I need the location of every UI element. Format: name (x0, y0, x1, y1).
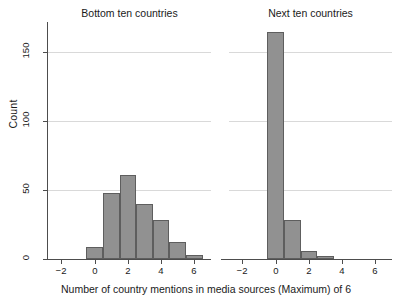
plot-area (48, 22, 211, 259)
x-tick-label: 0 (85, 265, 105, 276)
y-tick-mark (43, 121, 47, 122)
histogram-bar (136, 204, 153, 259)
x-tick-mark (276, 260, 277, 264)
histogram-bar (120, 175, 137, 259)
x-tick-mark (375, 260, 376, 264)
x-tick-label: 0 (266, 265, 286, 276)
y-tick-mark (43, 190, 47, 191)
y-tick-label: 150 (20, 36, 31, 66)
gridline (48, 121, 211, 122)
y-tick-label: 100 (20, 105, 31, 135)
x-tick-mark (128, 260, 129, 264)
gridline (229, 121, 392, 122)
histogram-figure: Count 050100150 Bottom ten countries Nex… (0, 0, 412, 304)
x-tick-label: 4 (332, 265, 352, 276)
histogram-bar (153, 220, 170, 259)
x-tick-mark (242, 260, 243, 264)
gridline (48, 52, 211, 53)
x-tick-mark (309, 260, 310, 264)
y-tick-label: 0 (20, 243, 31, 273)
histogram-bar (103, 193, 120, 259)
x-tick-mark (61, 260, 62, 264)
gridline (229, 190, 392, 191)
histogram-bar (169, 242, 186, 259)
x-tick-mark (95, 260, 96, 264)
x-tick-label: 2 (299, 265, 319, 276)
histogram-bar (86, 247, 103, 259)
x-tick-label: 6 (365, 265, 385, 276)
x-axis-label: Number of country mentions in media sour… (0, 283, 412, 295)
histogram-bar (267, 32, 284, 259)
panel-bottom-ten-countries: Bottom ten countries (48, 22, 211, 259)
x-axis-line-left (47, 259, 211, 260)
histogram-bar (284, 220, 301, 259)
panel-title: Next ten countries (229, 7, 392, 19)
plot-area (229, 22, 392, 259)
panel-title: Bottom ten countries (48, 7, 211, 19)
x-axis-line-right (221, 259, 392, 260)
y-tick-label: 50 (20, 174, 31, 204)
panel-next-ten-countries: Next ten countries (229, 22, 392, 259)
x-tick-mark (161, 260, 162, 264)
x-tick-mark (342, 260, 343, 264)
x-tick-label: 4 (151, 265, 171, 276)
x-tick-label: 2 (118, 265, 138, 276)
x-tick-mark (194, 260, 195, 264)
x-tick-label: −2 (51, 265, 71, 276)
y-tick-mark (43, 52, 47, 53)
gridline (229, 52, 392, 53)
x-tick-label: 6 (184, 265, 204, 276)
y-axis-label: Count (7, 79, 19, 149)
x-tick-label: −2 (232, 265, 252, 276)
histogram-bar (301, 251, 318, 259)
